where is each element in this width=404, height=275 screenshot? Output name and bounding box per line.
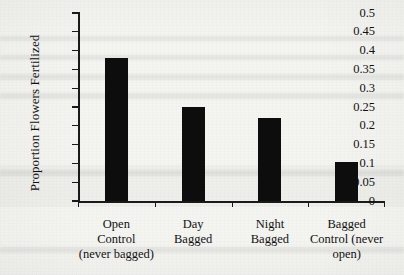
x-axis-tick [155, 201, 156, 207]
x-axis-category-label-line: open) [297, 247, 396, 262]
y-axis-tick [72, 88, 78, 89]
y-axis-line [78, 12, 80, 202]
y-axis-tick-label: 0.45 [353, 25, 375, 38]
y-axis-tick-label: 0.2 [359, 119, 375, 132]
y-axis-tick-label: 0.3 [359, 82, 375, 95]
y-axis-title: Proportion Flowers Fertilized [27, 13, 43, 213]
y-axis-tick-label: 0.4 [359, 44, 375, 57]
x-axis-category-label: BaggedControl (neveropen) [297, 217, 396, 261]
bar [258, 118, 281, 201]
y-axis-tick-label: 0 [369, 195, 375, 208]
y-axis-tick [72, 69, 78, 70]
plot-area: 0.50.450.40.350.30.250.20.150.10.050 Ope… [78, 13, 385, 201]
y-axis-tick [72, 50, 78, 51]
y-axis-tick-label: 0.25 [353, 101, 375, 114]
bar [105, 58, 128, 201]
x-axis-tick [308, 201, 309, 207]
x-axis-tick [384, 201, 385, 207]
x-axis-category-label-line: Bagged [297, 217, 396, 232]
bar [335, 162, 358, 201]
y-axis-tick [72, 163, 78, 164]
x-axis-tick [78, 201, 79, 207]
y-axis-tick-label: 0.1 [359, 157, 375, 170]
bar [182, 107, 205, 201]
y-axis-tick-label: 0.15 [353, 138, 375, 151]
y-axis-tick-label: 0.5 [359, 7, 375, 20]
x-axis-category-label-line: (never bagged) [67, 247, 166, 262]
y-axis-tick [72, 182, 78, 183]
y-axis-tick [72, 106, 78, 107]
y-axis-tick [72, 12, 78, 13]
y-axis-tick-label: 0.35 [353, 63, 375, 76]
y-axis-tick [72, 125, 78, 126]
x-axis-tick [232, 201, 233, 207]
x-axis-category-label-line: Control (never [297, 232, 396, 247]
y-axis-tick [72, 144, 78, 145]
bar-chart: Proportion Flowers Fertilized 0.50.450.4… [0, 0, 404, 275]
y-axis-tick [72, 31, 78, 32]
